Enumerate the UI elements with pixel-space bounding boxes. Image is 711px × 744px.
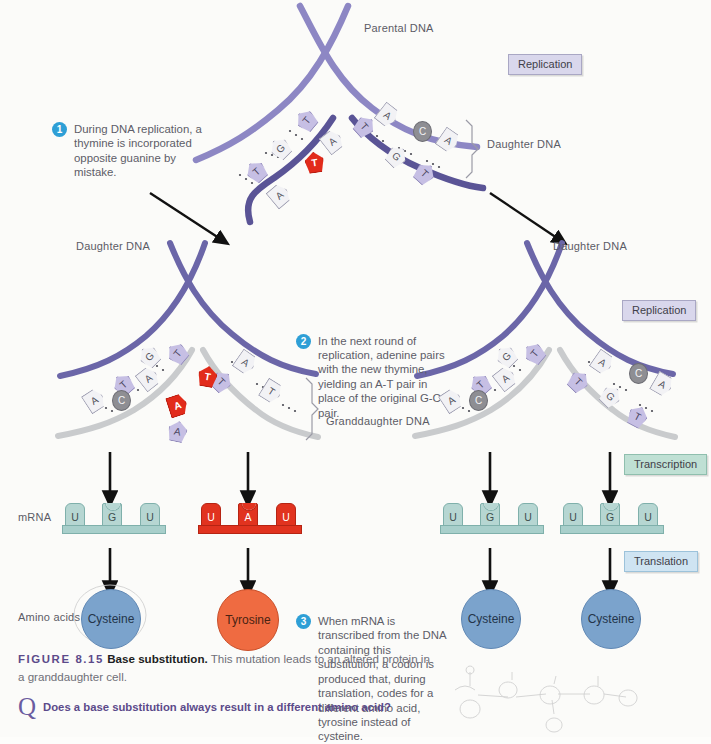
base-label: A [597, 356, 609, 369]
mrna-nucleotide: U [443, 503, 463, 527]
mrna-nucleotide: G [102, 503, 122, 527]
step-2-text: In the next round of replication, adenin… [318, 334, 446, 420]
base-label: A [240, 356, 252, 369]
base-g: G [135, 342, 163, 370]
process-box-replication-1: Replication [508, 54, 582, 75]
question-mark-icon: Q [18, 697, 36, 717]
process-box-transcription: Transcription [624, 454, 707, 475]
base-label: T [300, 115, 312, 127]
mrna-nucleotide: U [518, 503, 538, 527]
base-label: C [475, 395, 482, 406]
base-label: T [475, 378, 487, 390]
base-c: C [629, 363, 648, 384]
mrna-strand-1: U G U [62, 500, 166, 534]
mrna-strand-4: U G U [560, 500, 664, 534]
amino-acid-cysteine-2: Cysteine [461, 589, 521, 649]
base-label: T [419, 167, 431, 179]
amino-acid-tyrosine: Tyrosine [217, 589, 279, 651]
notch [105, 503, 121, 511]
label-amino-acids: Amino acids [18, 611, 80, 623]
mrna-nucleotide: G [480, 503, 500, 527]
base-c: C [413, 121, 432, 142]
figure-title: Base substitution. [107, 652, 208, 665]
base-t: A [166, 419, 189, 443]
base-label: A [446, 394, 458, 407]
step-3-number: 3 [296, 614, 311, 629]
base-label: G [143, 350, 156, 363]
amino-acid-cysteine-3: Cysteine [581, 589, 641, 649]
base-a: A [232, 348, 260, 376]
mrna-nucleotide: U [276, 503, 296, 527]
mrna-backbone [440, 525, 544, 534]
step-2-number: 2 [296, 334, 311, 349]
base-label: T [204, 371, 212, 383]
step-1-number: 1 [52, 122, 67, 137]
mrna-nucleotide: U [201, 503, 221, 527]
figure-question: Does a base substitution always result i… [43, 701, 391, 713]
base-label: T [251, 165, 263, 177]
base-label: C [419, 126, 426, 137]
mrna-nucleotide: U [638, 503, 658, 527]
notch [483, 503, 499, 511]
base-label: A [499, 372, 511, 385]
figure-caption: FIGURE 8.15 Base substitution. This muta… [18, 650, 438, 685]
label-daughter-dna-left: Daughter DNA [76, 240, 150, 252]
amino-acid-cysteine-1: Cysteine [81, 589, 141, 649]
base-label: C [635, 368, 642, 379]
base-c: C [469, 390, 488, 411]
base-label: T [528, 348, 540, 360]
mrna-nucleotide: G [600, 503, 620, 527]
base-label: T [632, 410, 643, 423]
base-label: A [172, 399, 182, 412]
figure-number: FIGURE 8.15 [18, 653, 104, 665]
base-label: G [500, 350, 513, 363]
base-label: T [311, 157, 319, 169]
mrna-nucleotide: U [65, 503, 85, 527]
base-label: A [381, 109, 393, 122]
mrna-nucleotide: A [238, 503, 258, 527]
mrna-nucleotide: U [140, 503, 160, 527]
label-daughter-dna-right: Daughter DNA [553, 240, 627, 252]
base-label: G [390, 150, 403, 163]
base-mutant-adenine: A [165, 393, 190, 419]
mrna-backbone [198, 525, 302, 534]
mrna-strand-2: U A U [198, 500, 302, 534]
process-box-replication-2: Replication [622, 300, 696, 321]
figure-question-row: Q Does a base substitution always result… [18, 697, 391, 717]
base-label: T [572, 375, 584, 387]
base-label: C [118, 395, 125, 406]
mrna-strand-3: U G U [440, 500, 544, 534]
base-label: T [266, 385, 277, 398]
notch [603, 503, 619, 511]
base-label: A [173, 425, 182, 437]
base-a: A [265, 181, 293, 209]
base-label: A [326, 135, 338, 148]
base-t: T [163, 339, 191, 367]
process-box-translation: Translation [624, 551, 698, 572]
base-label: T [118, 378, 130, 390]
base-label: T [215, 375, 227, 387]
base-c: C [112, 390, 131, 411]
base-a: A [135, 364, 163, 392]
step-1-text: During DNA replication, a thymine is inc… [74, 122, 202, 180]
base-a: T [258, 378, 285, 406]
base-label: A [443, 134, 455, 147]
base-label: A [657, 378, 668, 391]
step-1: 1 During DNA replication, a thymine is i… [52, 122, 711, 180]
base-label: G [604, 390, 617, 403]
figure-caption-block: FIGURE 8.15 Base substitution. This muta… [18, 650, 438, 685]
mrna-nucleotide: U [563, 503, 583, 527]
mrna-backbone [560, 525, 664, 534]
base-label: T [171, 348, 183, 360]
base-label: A [89, 394, 101, 407]
base-label: T [358, 121, 370, 133]
label-mrna: mRNA [18, 511, 51, 523]
base-a: A [81, 387, 108, 415]
label-parental-dna: Parental DNA [364, 22, 434, 34]
base-label: A [142, 372, 154, 385]
base-label: A [273, 189, 285, 202]
mrna-backbone [62, 525, 166, 534]
notch [241, 503, 257, 511]
base-label: G [274, 142, 287, 155]
